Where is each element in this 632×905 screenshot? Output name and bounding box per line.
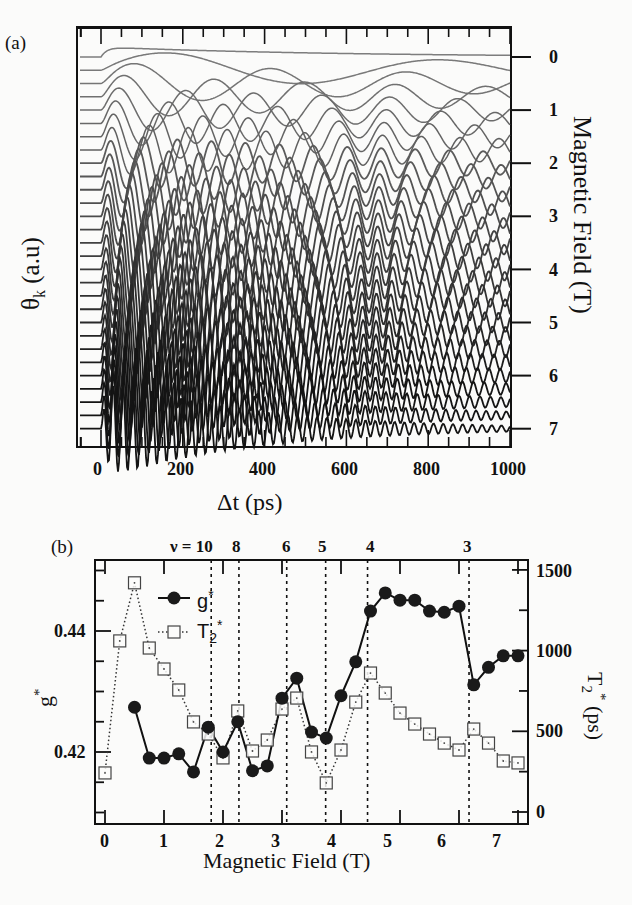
g-marker (172, 747, 185, 760)
b-y2tick-1000: 1000 (536, 642, 572, 660)
g-marker (202, 721, 215, 734)
b-xtick-1: 1 (159, 832, 168, 850)
b-yaxis-title: g* (32, 689, 56, 708)
g-marker (231, 715, 244, 728)
t2-marker-dot (281, 708, 283, 710)
a-y2tick-0: 0 (549, 48, 558, 66)
a-y2tick-3: 3 (549, 207, 558, 225)
g-marker (349, 655, 362, 668)
b-y2tick-0: 0 (536, 803, 545, 821)
legend-g-marker-icon (168, 592, 181, 605)
t2-marker-dot (502, 760, 504, 762)
t2-marker-dot (237, 710, 239, 712)
g-marker (394, 594, 407, 607)
a-xtick-1000: 1000 (490, 460, 526, 478)
b-xaxis-title: Magnetic Field (T) (203, 850, 370, 872)
g-marker (305, 726, 318, 739)
g-marker (453, 600, 466, 613)
b-y2label-sub: 2 (579, 685, 595, 693)
b-y2tick-500: 500 (536, 722, 563, 740)
g-marker (438, 606, 451, 619)
a-y2tick-2: 2 (549, 154, 558, 172)
t2-marker-dot (163, 668, 165, 670)
t2-marker-dot (517, 762, 519, 764)
legend-t2-marker-icon (168, 626, 180, 638)
a-top-mask (0, 0, 632, 26)
t2-marker-dot (429, 733, 431, 735)
nu-label-8: 8 (232, 538, 241, 555)
t2-marker-dot (104, 772, 106, 774)
t2-marker-dot (340, 749, 342, 751)
a-xtick-0: 0 (93, 460, 102, 478)
a-y2tick-7: 7 (549, 420, 558, 438)
g-marker (423, 605, 436, 618)
trace-B-0.25 (80, 53, 510, 84)
figure: (a) 0 200 400 600 800 1000 Δt (ps) 0 1 2… (0, 0, 632, 905)
panel-a-label: (a) (5, 33, 26, 52)
a-y2tick-1: 1 (549, 101, 558, 119)
g-marker (335, 689, 348, 702)
a-xtick-400: 400 (249, 460, 276, 478)
trace-B-0 (80, 48, 510, 57)
b-ytick-044: 0.44 (54, 622, 86, 640)
b-xtick-7: 7 (492, 832, 501, 850)
g-marker (482, 661, 495, 674)
t2-marker-dot (414, 723, 416, 725)
t2-marker-dot (355, 701, 357, 703)
a-ylabel-theta: θ (17, 298, 44, 310)
a-xtick-800: 800 (413, 460, 440, 478)
a-yaxis-title: θk (a.u) (18, 237, 48, 310)
b-ylabel-g: g (32, 696, 57, 707)
b-xtick-6: 6 (437, 832, 446, 850)
b-ylabel-sup: * (31, 689, 47, 697)
t2-marker-dot (134, 582, 136, 584)
b-y2label-unit: (ps) (583, 700, 608, 740)
b-xtick-0: 0 (100, 832, 109, 850)
a-top-frame-line (76, 27, 512, 29)
a-y2axis-title: Magnetic Field (T) (569, 116, 595, 314)
legend-g-sup: * (208, 587, 213, 603)
legend-t-text: T (197, 620, 209, 642)
b-xtick-5: 5 (383, 832, 392, 850)
t2-marker-dot (384, 692, 386, 694)
g-marker (379, 586, 392, 599)
t2-marker-dot (296, 697, 298, 699)
a-xtick-200: 200 (167, 460, 194, 478)
legend-t-sub: 2 (209, 630, 217, 646)
a-xtick-600: 600 (331, 460, 358, 478)
b-y2tick-1500: 1500 (536, 562, 572, 580)
nu-label-10: ν = 10 (170, 538, 213, 555)
a-xaxis-title: Δt (ps) (217, 490, 282, 514)
panel-b-frame (95, 560, 528, 824)
g-marker (187, 765, 200, 778)
a-y2tick-6: 6 (549, 367, 558, 385)
a-ylabel-unit: (a.u) (17, 237, 44, 290)
g-marker (128, 701, 141, 714)
legend-t-sup: * (217, 617, 222, 633)
t2-marker-dot (458, 749, 460, 751)
t2-marker-dot (399, 712, 401, 714)
b-ytick-042: 0.42 (54, 743, 86, 761)
legend-label-g: g* (197, 588, 214, 611)
nu-label-3: 3 (463, 538, 472, 555)
g-marker (276, 692, 289, 705)
t2-marker-dot (443, 742, 445, 744)
b-y2label-t: T (583, 672, 608, 685)
t2-marker-dot (178, 689, 180, 691)
g-marker (497, 649, 510, 662)
a-ylabel-sub: k (31, 290, 48, 298)
b-y2axis-title: T2* (ps) (579, 672, 608, 740)
figure-canvas (0, 0, 632, 905)
g-marker (290, 672, 303, 685)
panel-b-label: (b) (51, 537, 73, 556)
trace-B-0.75 (80, 76, 510, 116)
g-marker (143, 752, 156, 765)
t2-marker-dot (148, 647, 150, 649)
nu-label-4: 4 (366, 538, 375, 555)
t2-marker-dot (266, 739, 268, 741)
g-marker (158, 752, 171, 765)
t2-marker-dot (473, 728, 475, 730)
t2-marker-dot (311, 751, 313, 753)
t2-marker-dot (370, 672, 372, 674)
t2-marker-dot (488, 742, 490, 744)
